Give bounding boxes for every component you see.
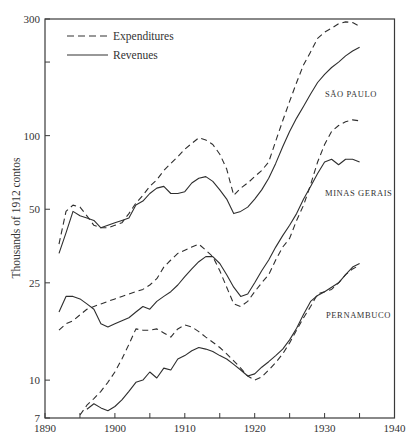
label-pernambuco: PERNAMBUCO [326,310,391,320]
y-tick-label: 100 [24,130,41,142]
x-tick-label: 1910 [174,422,197,434]
y-tick-label: 25 [29,277,41,289]
x-tick-label: 1920 [244,422,267,434]
label-sao-paulo: SÃO PAULO [325,89,377,99]
y-tick-label: 7 [35,412,41,424]
plot-frame [45,19,395,418]
y-tick-label: 10 [29,374,41,386]
minas-gerais-revenues-line [59,159,360,327]
x-tick-label: 1930 [314,422,337,434]
x-axis: 189019001910192019301940 [34,413,406,434]
x-tick-label: 1900 [104,422,127,434]
y-tick-label: 300 [24,13,41,25]
legend-expenditures-label: Expenditures [113,30,174,43]
plot-lines [59,22,360,415]
y-axis: 7102550100300 [24,13,51,424]
x-tick-label: 1940 [384,422,407,434]
legend-revenues-label: Revenues [113,49,158,61]
pernambuco-expenditures-line [80,265,360,415]
label-minas-gerais: MINAS GERAIS [325,188,392,198]
sao-paulo-revenues-line [59,47,360,253]
y-tick-label: 50 [29,203,41,215]
y-axis-title: Thousands of 1912 contos [10,157,22,279]
pernambuco-revenues-line [87,264,360,411]
legend: Expenditures Revenues [67,30,174,61]
chart: 189019001910192019301940 7102550100300 T… [0,0,417,446]
